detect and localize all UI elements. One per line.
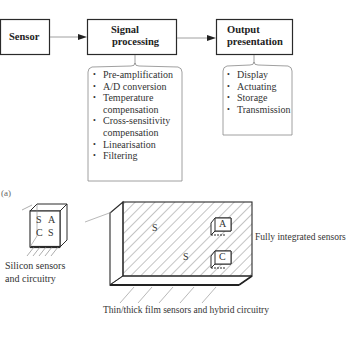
list-item: Transmission bbox=[227, 104, 291, 116]
substrate-edge-line bbox=[85, 212, 112, 222]
chip-a-label: A bbox=[219, 218, 226, 229]
chip-letter-a: A bbox=[48, 214, 55, 225]
thin-thick-film-caption: Thin/thick film sensors and hybrid circu… bbox=[103, 305, 269, 315]
chip-letter-c: C bbox=[36, 227, 43, 238]
chip-letter-s1: S bbox=[36, 214, 42, 225]
substrate-block bbox=[110, 202, 252, 285]
fully-integrated-caption: Fully integrated sensors bbox=[255, 232, 346, 242]
panel-label: (a) bbox=[1, 188, 11, 198]
list-item: A/D conversion bbox=[93, 81, 173, 93]
arrow-sensor-to-processing bbox=[50, 34, 87, 40]
signal-processing-list: Pre-amplification A/D conversion Tempera… bbox=[93, 69, 173, 162]
sensor-label: Sensor bbox=[9, 31, 39, 44]
diagram-canvas bbox=[0, 0, 355, 340]
substrate-s-label-2: S bbox=[183, 251, 189, 262]
silicon-caption-line1: Silicon sensors bbox=[5, 260, 65, 271]
signal-processing-line2: processing bbox=[112, 36, 159, 49]
list-item: Display bbox=[227, 69, 291, 81]
list-item: Storage bbox=[227, 92, 291, 104]
list-item: Pre-amplification bbox=[93, 69, 173, 81]
arrow-processing-to-output bbox=[177, 35, 216, 41]
list-item: Temperaturecompensation bbox=[93, 92, 173, 115]
list-item: Linearisation bbox=[93, 139, 173, 151]
list-item: Actuating bbox=[227, 81, 291, 93]
substrate-legs bbox=[120, 287, 216, 303]
chip-c-label: C bbox=[219, 251, 226, 262]
silicon-chip-cube bbox=[30, 204, 67, 247]
chip-letter-s2: S bbox=[48, 227, 54, 238]
signal-processing-line1: Signal bbox=[111, 24, 139, 37]
output-presentation-list: Display Actuating Storage Transmission bbox=[227, 69, 291, 115]
list-item: Filtering bbox=[93, 150, 173, 162]
output-presentation-line2: presentation bbox=[227, 36, 283, 49]
substrate-s-label-1: S bbox=[152, 222, 158, 233]
output-presentation-line1: Output bbox=[227, 24, 260, 37]
silicon-caption-line2: and circuitry bbox=[5, 273, 56, 284]
list-item: Cross-sensitivitycompensation bbox=[93, 115, 173, 138]
